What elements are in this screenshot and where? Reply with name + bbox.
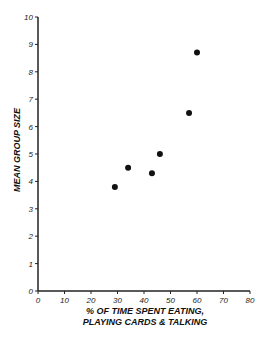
- y-tick-label: 9: [29, 40, 34, 49]
- scatter-chart: 01020304050607080 012345678910 % OF TIME…: [0, 0, 269, 338]
- axes: [38, 17, 250, 291]
- y-tick-label: 6: [29, 123, 34, 132]
- x-tick-label: 40: [140, 296, 149, 305]
- y-tick-label: 2: [28, 232, 34, 241]
- x-axis-label-line2: PLAYING CARDS & TALKING: [83, 317, 208, 327]
- y-tick-label: 4: [29, 177, 34, 186]
- x-axis-ticks: 01020304050607080: [36, 291, 255, 305]
- data-point: [149, 170, 155, 176]
- data-point: [157, 151, 163, 157]
- x-tick-label: 10: [60, 296, 69, 305]
- y-tick-label: 8: [29, 68, 34, 77]
- y-tick-label: 7: [29, 95, 34, 104]
- x-axis-label-line1: % OF TIME SPENT EATING,: [86, 306, 204, 316]
- x-tick-label: 70: [219, 296, 228, 305]
- y-tick-label: 10: [24, 13, 33, 22]
- data-point: [186, 110, 192, 116]
- y-tick-label: 1: [29, 260, 33, 269]
- data-point: [194, 50, 200, 56]
- data-points: [112, 50, 200, 190]
- x-tick-label: 20: [86, 296, 96, 305]
- y-axis-ticks: 012345678910: [24, 13, 38, 296]
- data-point: [112, 184, 118, 190]
- y-tick-label: 0: [29, 287, 34, 296]
- y-tick-label: 5: [29, 150, 34, 159]
- x-tick-label: 80: [246, 296, 255, 305]
- x-tick-label: 50: [166, 296, 175, 305]
- data-point: [125, 165, 131, 171]
- x-tick-label: 60: [193, 296, 202, 305]
- y-tick-label: 3: [29, 205, 34, 214]
- y-axis-label: MEAN GROUP SIZE: [12, 107, 22, 192]
- x-tick-label: 0: [36, 296, 41, 305]
- x-tick-label: 30: [113, 296, 122, 305]
